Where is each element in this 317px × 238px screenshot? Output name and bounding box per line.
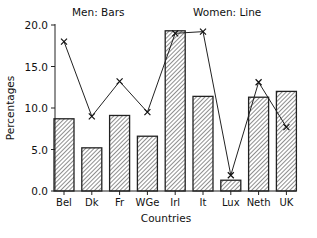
bar-Irl [165,31,185,191]
bar-Dk [82,148,102,191]
bar-It [193,96,213,191]
bar-line-chart: 0.05.010.015.020.0BelDkFrWGeIrlItLuxNeth… [0,0,317,238]
bar-Fr [110,115,130,191]
x-tick-label: Irl [170,197,180,208]
x-tick-label: WGe [136,197,160,208]
x-marker-icon [89,113,95,119]
y-axis-label: Percentages [4,76,16,141]
x-marker-icon [256,79,262,85]
bar-Bel [54,119,74,191]
y-tick-label: 10.0 [25,102,48,114]
annotation-women: Women: Line [193,6,261,18]
bar-WGe [137,136,157,191]
x-tick-label: UK [279,197,293,208]
y-tick-label: 15.0 [25,61,48,73]
x-marker-icon [117,78,123,84]
x-tick-label: Neth [247,197,271,208]
annotation-men: Men: Bars [72,6,124,18]
x-tick-label: Bel [56,197,72,208]
bar-Lux [221,180,241,191]
x-marker-icon [144,109,150,115]
bar-UK [276,91,296,191]
x-tick-label: Fr [115,197,125,208]
x-axis-label: Countries [141,212,191,224]
x-tick-label: It [200,197,207,208]
y-tick-label: 20.0 [25,19,48,31]
x-tick-label: Dk [85,197,99,208]
x-marker-icon [61,39,67,45]
y-tick-label: 0.0 [31,185,48,197]
men-bars [54,31,296,191]
x-tick-label: Lux [222,197,240,208]
bar-Neth [249,97,269,191]
y-tick-label: 5.0 [31,144,48,156]
